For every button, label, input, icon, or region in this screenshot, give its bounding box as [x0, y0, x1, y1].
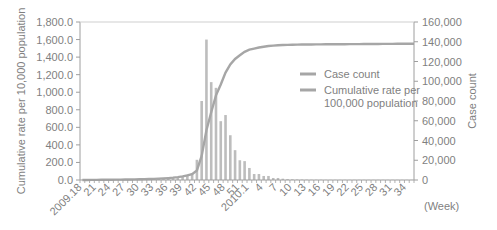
- bar: [239, 160, 242, 180]
- legend: Case count Cumulative rate per 100,000 p…: [300, 68, 420, 109]
- left-axis-title: Cumulative rate per 10,000 population: [15, 8, 27, 195]
- left-tick-label: 1,000.0: [36, 86, 73, 98]
- right-tick-label: 100,000: [422, 75, 462, 87]
- axes: 0.0200.0400.0600.0800.01,000.01,200.01,4…: [36, 16, 461, 218]
- left-tick-label: 1,600.0: [36, 34, 73, 46]
- bar: [234, 150, 237, 180]
- right-tick-label: 40,000: [422, 135, 456, 147]
- x-tick-label: 4: [252, 181, 265, 194]
- bar: [258, 174, 261, 180]
- right-tick-label: 20,000: [422, 154, 456, 166]
- right-tick-label: 80,000: [422, 95, 456, 107]
- left-tick-label: 800.0: [45, 104, 73, 116]
- bar: [262, 176, 265, 180]
- right-tick-label: 140,000: [422, 36, 462, 48]
- bar: [210, 82, 213, 180]
- case-count-bars: [81, 40, 413, 180]
- right-tick-label: 160,000: [422, 16, 462, 28]
- epidemic-chart: 0.0200.0400.0600.0800.01,000.01,200.01,4…: [0, 0, 497, 230]
- bar: [219, 121, 222, 180]
- right-axis-title: Case count: [466, 73, 478, 129]
- right-tick-label: 0: [422, 174, 428, 186]
- x-tick-label: 2009.18: [47, 181, 84, 218]
- right-tick-label: 60,000: [422, 115, 456, 127]
- bar: [205, 40, 208, 180]
- left-tick-label: 200.0: [45, 156, 73, 168]
- legend-label-case-count: Case count: [324, 68, 380, 80]
- x-axis-title: (Week): [424, 200, 459, 212]
- left-tick-label: 1,800.0: [36, 16, 73, 28]
- legend-label-cumulative-1: Cumulative rate per: [324, 84, 420, 96]
- bar: [243, 161, 246, 180]
- bar: [200, 101, 203, 180]
- left-tick-label: 600.0: [45, 121, 73, 133]
- x-tick-label: 34: [391, 181, 408, 198]
- cumulative-rate-line: [82, 44, 414, 180]
- right-tick-label: 120,000: [422, 56, 462, 68]
- bar: [229, 135, 232, 180]
- bar: [267, 176, 270, 180]
- bar: [224, 115, 227, 180]
- bar: [253, 174, 256, 180]
- left-tick-label: 400.0: [45, 139, 73, 151]
- left-tick-label: 1,400.0: [36, 51, 73, 63]
- legend-label-cumulative-2: 100,000 population: [324, 97, 418, 109]
- bar: [248, 168, 251, 180]
- left-tick-label: 1,200.0: [36, 69, 73, 81]
